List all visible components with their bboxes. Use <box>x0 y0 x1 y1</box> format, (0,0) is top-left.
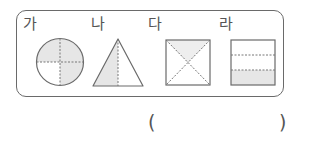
answer-close-paren: ) <box>279 113 286 132</box>
figure-label-ra: 라 <box>219 17 233 32</box>
square-figure <box>165 39 211 86</box>
figure-label-na: 나 <box>91 17 105 32</box>
triangle-figure <box>92 38 144 87</box>
circle-figure <box>35 37 85 87</box>
answer-blank[interactable] <box>160 113 278 133</box>
answer-open-paren: ( <box>148 113 155 132</box>
figure-label-da: 다 <box>148 17 162 32</box>
figure-label-ga: 가 <box>23 17 37 32</box>
rectangle-figure <box>230 39 276 86</box>
